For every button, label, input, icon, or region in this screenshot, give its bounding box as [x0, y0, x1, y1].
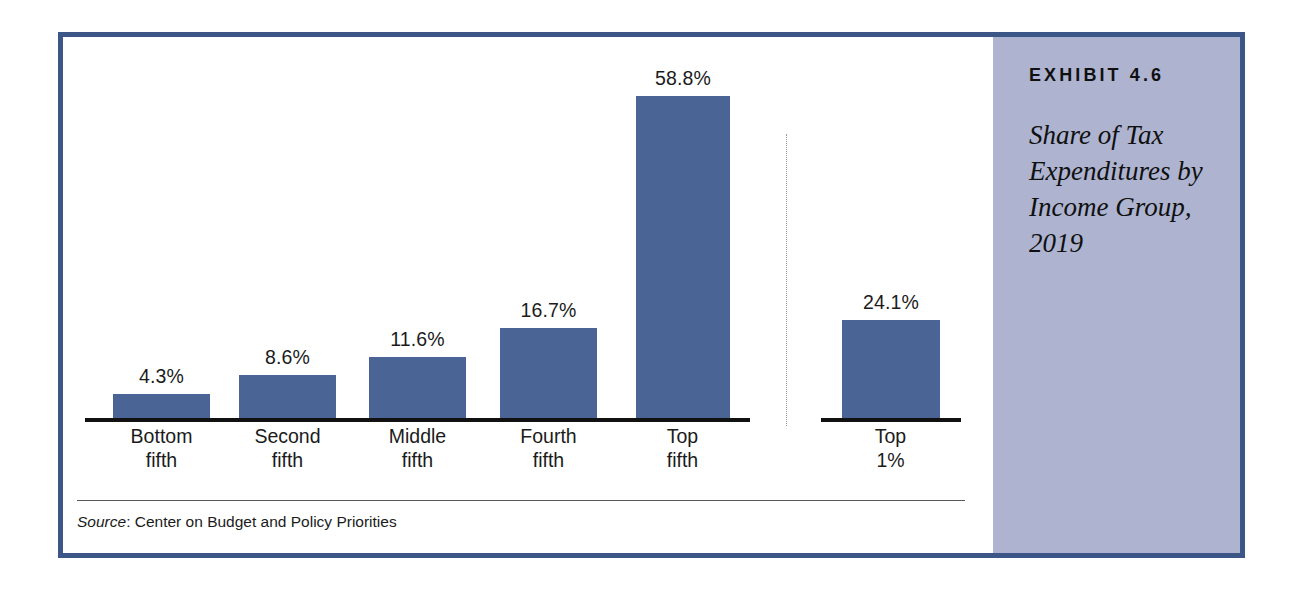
- source-separator: :: [126, 513, 135, 530]
- x-tick-middle-fifth: Middle fifth: [357, 425, 478, 472]
- bar-value-bottom-fifth: 4.3%: [139, 365, 184, 388]
- bar-value-second-fifth: 8.6%: [265, 346, 310, 369]
- x-tick-fourth-fifth-line1: Fourth: [488, 425, 609, 449]
- bar-plot: 4.3% 8.6% 11.6% 16.7% 58.8%: [63, 37, 993, 419]
- bar-top-fifth[interactable]: [636, 96, 730, 419]
- source-note: Source: Center on Budget and Policy Prio…: [77, 513, 397, 531]
- chart-area: 4.3% 8.6% 11.6% 16.7% 58.8%: [63, 37, 993, 553]
- bar-value-top-one-percent: 24.1%: [863, 291, 919, 314]
- exhibit-caption-panel: EXHIBIT 4.6 Share of Tax Expenditures by…: [993, 37, 1240, 553]
- bar-bottom-fifth[interactable]: [113, 394, 210, 419]
- x-tick-bottom-fifth-line2: fifth: [101, 449, 222, 473]
- source-divider-rule: [77, 500, 965, 501]
- x-tick-top-one-percent-line2: 1%: [830, 449, 951, 473]
- x-tick-bottom-fifth: Bottom fifth: [101, 425, 222, 472]
- group-separator-dotted-line: [786, 134, 787, 426]
- x-tick-middle-fifth-line1: Middle: [357, 425, 478, 449]
- x-tick-fourth-fifth: Fourth fifth: [488, 425, 609, 472]
- exhibit-number: EXHIBIT 4.6: [1029, 65, 1164, 86]
- exhibit-title: Share of Tax Expenditures by Income Grou…: [1029, 117, 1219, 261]
- bar-value-top-fifth: 58.8%: [655, 67, 711, 90]
- x-axis-line-quintiles: [85, 418, 750, 422]
- bar-value-middle-fifth: 11.6%: [390, 328, 444, 351]
- x-tick-top-fifth-line2: fifth: [622, 449, 743, 473]
- x-tick-top-one-percent-line1: Top: [830, 425, 951, 449]
- bar-second-fifth[interactable]: [239, 375, 336, 419]
- x-tick-top-fifth: Top fifth: [622, 425, 743, 472]
- x-tick-second-fifth: Second fifth: [227, 425, 348, 472]
- bar-middle-fifth[interactable]: [369, 357, 466, 419]
- source-text: Center on Budget and Policy Priorities: [135, 513, 397, 530]
- x-tick-second-fifth-line1: Second: [227, 425, 348, 449]
- x-axis-line-top-one-percent: [821, 418, 961, 422]
- bar-fourth-fifth[interactable]: [500, 328, 597, 419]
- x-tick-middle-fifth-line2: fifth: [357, 449, 478, 473]
- x-tick-second-fifth-line2: fifth: [227, 449, 348, 473]
- x-tick-fourth-fifth-line2: fifth: [488, 449, 609, 473]
- source-label: Source: [77, 513, 126, 530]
- bar-value-fourth-fifth: 16.7%: [521, 299, 577, 322]
- exhibit-screenshot: 4.3% 8.6% 11.6% 16.7% 58.8%: [0, 0, 1303, 596]
- exhibit-frame: 4.3% 8.6% 11.6% 16.7% 58.8%: [58, 32, 1245, 558]
- bar-top-one-percent[interactable]: [842, 320, 940, 419]
- x-tick-bottom-fifth-line1: Bottom: [101, 425, 222, 449]
- x-tick-top-one-percent: Top 1%: [830, 425, 951, 472]
- x-tick-top-fifth-line1: Top: [622, 425, 743, 449]
